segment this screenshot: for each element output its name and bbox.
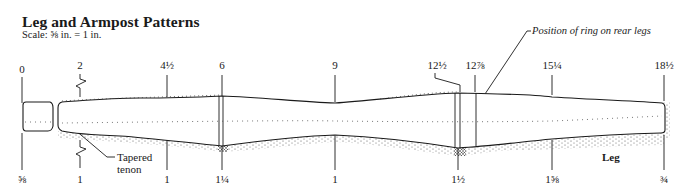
leg-pattern-drawing: [0, 0, 688, 191]
